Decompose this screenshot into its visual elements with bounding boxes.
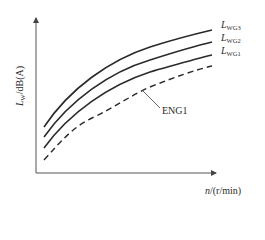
x-axis-label: n/(r/min): [205, 186, 241, 196]
eng1-label: ENG1: [162, 106, 188, 116]
legend-label-lwg1: LWG1: [221, 46, 241, 59]
y-axis-label: LW/dB(A): [14, 66, 26, 106]
eng1-leader-line: [142, 90, 160, 108]
